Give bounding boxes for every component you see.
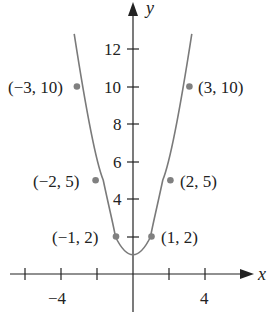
- y-tick-label-12: 12: [104, 40, 121, 59]
- y-tick-label-10: 10: [104, 78, 121, 97]
- point-3: [186, 83, 193, 90]
- y-tick-label-6: 6: [113, 153, 122, 172]
- x-arrow-icon: [240, 269, 254, 279]
- y-tick-label-8: 8: [113, 115, 122, 134]
- x-tick-label-minus4: −4: [48, 289, 67, 308]
- label-point-m3: (−3, 10): [8, 78, 63, 97]
- y-tick-label-4: 4: [113, 190, 122, 209]
- label-point-3: (3, 10): [198, 78, 243, 97]
- x-axis-label: x: [257, 264, 266, 284]
- y-axis-label: y: [144, 0, 154, 18]
- label-point-1: (1, 2): [161, 228, 198, 247]
- point-2: [167, 177, 174, 184]
- y-arrow-icon: [128, 2, 138, 16]
- x-tick-label-4: 4: [200, 289, 209, 308]
- point-m3: [74, 83, 81, 90]
- y-axis: y 12 10 8 6 4: [104, 0, 154, 312]
- x-axis: x −4 4: [10, 264, 266, 308]
- point-m1: [113, 233, 120, 240]
- chart: x −4 4 y 12 10 8 6 4 (−3, 10) (−2, 5) (: [0, 0, 270, 320]
- label-point-m2: (−2, 5): [33, 172, 79, 191]
- label-point-2: (2, 5): [180, 172, 217, 191]
- point-1: [148, 233, 155, 240]
- label-point-m1: (−1, 2): [52, 228, 98, 247]
- point-m2: [92, 177, 99, 184]
